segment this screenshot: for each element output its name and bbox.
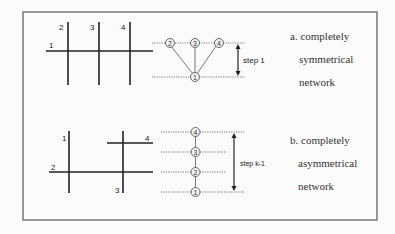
node-label: 1 bbox=[194, 189, 198, 196]
caption-b-line1: b. completely bbox=[290, 134, 350, 146]
panel-a-tree: 2 3 4 1 step 1 bbox=[152, 39, 265, 82]
caption-a-line2: symmetrical bbox=[299, 53, 353, 65]
caption-b-line3: network bbox=[298, 180, 335, 192]
node-label: 4 bbox=[194, 129, 198, 136]
node-label: 3 bbox=[194, 149, 198, 156]
panel-b-grid: 1 2 3 4 bbox=[49, 131, 153, 195]
node-label: 3 bbox=[193, 40, 197, 47]
grid-label: 3 bbox=[90, 23, 95, 32]
caption-a-line3: network bbox=[299, 76, 336, 88]
grid-label: 1 bbox=[62, 134, 67, 143]
step-label: step 1 bbox=[243, 56, 265, 65]
grid-label: 1 bbox=[49, 41, 54, 50]
grid-label: 4 bbox=[121, 23, 126, 32]
grid-label: 2 bbox=[59, 23, 64, 32]
node-label: 2 bbox=[194, 169, 198, 176]
caption-a-line1: a. completely bbox=[290, 30, 350, 42]
grid-label: 3 bbox=[115, 186, 120, 195]
node-label: 1 bbox=[193, 74, 197, 81]
grid-label: 4 bbox=[145, 134, 150, 143]
step-label: step k-1 bbox=[240, 160, 265, 168]
panel-b-chain: 4 3 2 1 step k-1 bbox=[161, 128, 265, 197]
panel-a-grid: 1 2 3 4 bbox=[46, 22, 153, 85]
grid-label: 2 bbox=[51, 163, 56, 172]
caption-b-line2: asymmetrical bbox=[298, 157, 357, 169]
node-label: 4 bbox=[217, 40, 221, 47]
node-label: 2 bbox=[168, 40, 172, 47]
network-diagram: 1 2 3 4 2 3 4 1 step 1 a. completely sym… bbox=[0, 0, 395, 234]
